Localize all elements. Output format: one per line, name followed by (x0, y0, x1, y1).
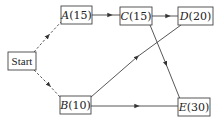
node-c: C(15) (120, 7, 152, 25)
node-start-label: Start (12, 55, 33, 67)
svg-text:C(15): C(15) (120, 10, 151, 23)
edge-start-to-a-tail (48, 22, 61, 36)
node-b-name: B (59, 99, 68, 112)
node-d-duration: (20) (189, 10, 212, 23)
edge-c-to-e (150, 25, 166, 64)
svg-text:B(10): B(10) (59, 99, 91, 112)
svg-text:E(30): E(30) (178, 101, 210, 114)
node-e-name: E (178, 101, 187, 114)
edge-c-to-e-tail (166, 64, 180, 99)
node-a-name: A (60, 9, 69, 22)
node-e: E(30) (178, 98, 210, 116)
edge-start-to-a (34, 36, 48, 52)
edge-b-to-d (91, 57, 137, 97)
node-d: D(20) (178, 7, 213, 25)
node-b: B(10) (59, 96, 91, 114)
edges (34, 15, 181, 106)
activity-network-diagram: Start A(15) C(15) D(20) B(10) E(30) (0, 0, 216, 121)
node-d-name: D (179, 10, 189, 23)
node-a-duration: (15) (69, 9, 92, 22)
node-c-duration: (15) (129, 10, 152, 23)
edge-start-to-b (34, 70, 49, 85)
svg-text:A(15): A(15) (60, 9, 92, 22)
svg-text:D(20): D(20) (179, 10, 211, 23)
edge-b-to-d-tail (137, 25, 181, 57)
node-e-duration: (30) (187, 101, 210, 114)
node-start: Start (8, 52, 36, 70)
node-b-duration: (10) (68, 99, 91, 112)
edge-start-to-b-tail (49, 85, 60, 97)
node-a: A(15) (60, 6, 92, 24)
